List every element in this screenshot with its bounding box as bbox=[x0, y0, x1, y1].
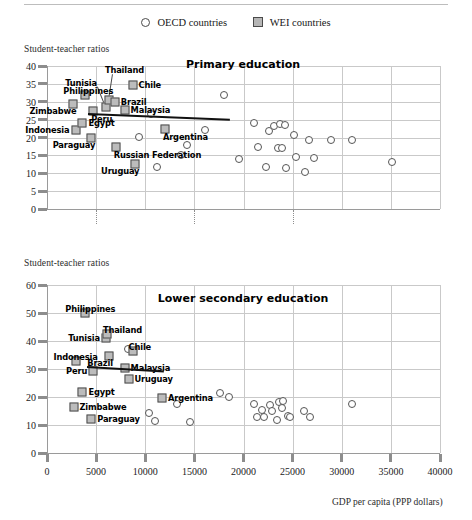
y-axis-label: 0 bbox=[31, 204, 36, 215]
y-axis-label: 15 bbox=[26, 150, 36, 161]
lower-secondary-education-chart: 0102030405060050001000015000200002500030… bbox=[47, 285, 440, 453]
y-axis-tick bbox=[38, 136, 47, 139]
primary-plot-area: 0510152025303540PhilippinesZimbabweIndon… bbox=[47, 66, 440, 209]
header-rule bbox=[24, 4, 448, 5]
x-axis-tick-label: 40000 bbox=[428, 466, 453, 477]
data-label-chile: Chile bbox=[139, 80, 162, 90]
data-label-uruguay: Uruguay bbox=[135, 374, 173, 384]
data-label-paraguay: Paraguay bbox=[53, 140, 96, 150]
gridline-dotted bbox=[293, 210, 295, 224]
x-axis-tick bbox=[242, 454, 245, 462]
data-point-wei bbox=[158, 394, 167, 403]
legend-item-wei: WEI countries bbox=[253, 17, 330, 28]
data-point-oecd bbox=[250, 119, 258, 127]
data-label-malaysia: Malaysia bbox=[131, 105, 171, 115]
y-axis-label: 60 bbox=[26, 280, 36, 291]
y-axis-tick bbox=[38, 340, 47, 343]
data-point-oecd bbox=[327, 136, 335, 144]
data-label-egypt: Egypt bbox=[88, 387, 114, 397]
data-label-argentina: Argentina bbox=[168, 393, 213, 403]
data-point-oecd bbox=[262, 163, 270, 171]
y-axis-label: 0 bbox=[31, 448, 36, 459]
data-point-oecd bbox=[254, 143, 262, 151]
data-label-paraguay: Paraguay bbox=[97, 414, 140, 424]
legend-label-oecd: OECD countries bbox=[157, 17, 227, 28]
data-point-oecd bbox=[348, 400, 356, 408]
data-point-oecd bbox=[273, 416, 281, 424]
data-label-indonesia: Indonesia bbox=[25, 125, 69, 135]
y-axis-line bbox=[47, 66, 48, 209]
data-point-wei bbox=[124, 375, 133, 384]
x-axis-tick-label: 35000 bbox=[378, 466, 403, 477]
data-point-oecd bbox=[301, 168, 309, 176]
gridline-vertical bbox=[342, 66, 343, 209]
data-label-tunisia: Tunisia bbox=[65, 78, 97, 88]
chart-legend: OECD countries WEI countries bbox=[0, 14, 472, 30]
square-marker-icon bbox=[253, 17, 263, 27]
x-axis-tick-label: 10000 bbox=[133, 466, 158, 477]
y-axis-tick bbox=[38, 284, 47, 287]
data-point-oecd bbox=[305, 136, 313, 144]
y-axis-tick bbox=[38, 312, 47, 315]
data-point-oecd bbox=[145, 409, 153, 417]
x-axis-tick-label: 0 bbox=[45, 466, 50, 477]
gridline-vertical bbox=[293, 285, 294, 453]
data-point-oecd bbox=[220, 91, 228, 99]
header-rule-stub bbox=[24, 0, 64, 3]
y-axis-tick bbox=[38, 65, 47, 68]
y-axis-tick bbox=[38, 154, 47, 157]
gridline-vertical bbox=[244, 285, 245, 453]
data-point-oecd bbox=[282, 164, 290, 172]
data-point-oecd bbox=[135, 133, 143, 141]
data-point-oecd bbox=[186, 418, 194, 426]
data-point-oecd bbox=[235, 155, 243, 163]
x-axis-tick bbox=[193, 454, 196, 462]
lower-secondary-chart-title: Lower secondary education bbox=[158, 292, 329, 305]
circle-marker-icon bbox=[141, 18, 150, 27]
data-point-wei bbox=[71, 126, 80, 135]
primary-education-chart: 0510152025303540PhilippinesZimbabweIndon… bbox=[47, 66, 440, 209]
gridline-vertical bbox=[440, 285, 441, 453]
y-axis-tick bbox=[38, 368, 47, 371]
x-axis-title: GDP per capita (PPP dollars) bbox=[332, 497, 443, 507]
data-point-oecd bbox=[151, 417, 159, 425]
y-axis-label: 5 bbox=[31, 186, 36, 197]
data-point-wei bbox=[69, 402, 78, 411]
data-point-oecd bbox=[310, 154, 318, 162]
data-point-wei bbox=[128, 80, 137, 89]
data-point-oecd bbox=[250, 400, 258, 408]
y-axis-label: 20 bbox=[26, 392, 36, 403]
data-point-oecd bbox=[225, 393, 233, 401]
x-axis-tick bbox=[95, 454, 98, 462]
gridline-dotted bbox=[194, 210, 196, 224]
data-point-oecd bbox=[260, 413, 268, 421]
data-label-zimbabwe: Zimbabwe bbox=[29, 106, 76, 116]
data-point-oecd bbox=[348, 136, 356, 144]
gridline-vertical bbox=[194, 285, 195, 453]
x-axis-tick bbox=[389, 454, 392, 462]
lower-secondary-plot-area: 0102030405060050001000015000200002500030… bbox=[47, 285, 440, 453]
data-label-uruguay: Uruguay bbox=[101, 166, 139, 176]
y-axis-label: 30 bbox=[26, 364, 36, 375]
x-axis-tick bbox=[439, 454, 442, 462]
data-label-thailand: Thailand bbox=[103, 325, 142, 335]
data-point-wei bbox=[87, 415, 96, 424]
data-point-wei bbox=[78, 388, 87, 397]
data-point-oecd bbox=[306, 413, 314, 421]
y-axis-label: 40 bbox=[26, 61, 36, 72]
x-axis-tick-label: 20000 bbox=[231, 466, 256, 477]
data-label-chile: Chile bbox=[129, 342, 152, 352]
x-axis-line bbox=[47, 209, 440, 210]
bottom-chart-y-caption: Student-teacher ratios bbox=[24, 258, 109, 268]
y-axis-tick bbox=[38, 396, 47, 399]
y-axis-label: 50 bbox=[26, 308, 36, 319]
data-point-oecd bbox=[278, 144, 286, 152]
gridline-dotted bbox=[96, 210, 98, 224]
data-point-oecd bbox=[388, 158, 396, 166]
legend-item-oecd: OECD countries bbox=[141, 17, 227, 28]
y-axis-tick bbox=[38, 118, 47, 121]
x-axis-tick-label: 15000 bbox=[182, 466, 207, 477]
y-axis-label: 40 bbox=[26, 336, 36, 347]
data-point-oecd bbox=[292, 153, 300, 161]
gridline-vertical bbox=[342, 285, 343, 453]
